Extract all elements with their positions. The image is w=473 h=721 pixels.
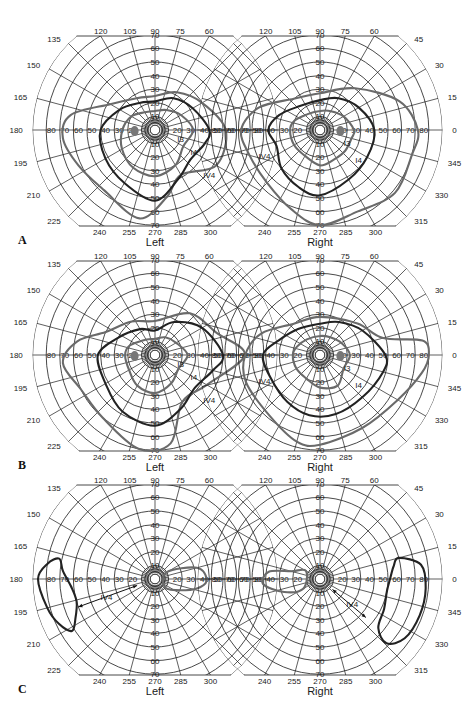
meridian-label: 135 xyxy=(47,35,61,44)
eccentricity-label: 50 xyxy=(253,575,262,584)
left-eye-label: Left xyxy=(146,685,164,697)
eccentricity-label: 80 xyxy=(212,351,221,360)
meridian-line xyxy=(43,514,143,572)
eccentricity-label: 60 xyxy=(316,493,325,502)
meridian-label: 60 xyxy=(370,252,379,261)
meridian-label: 195 xyxy=(14,384,28,393)
meridian-label: 105 xyxy=(288,252,302,261)
eccentricity-label: 60 xyxy=(316,269,325,278)
eccentricity-label: 50 xyxy=(253,351,262,360)
eccentricity-label: 50 xyxy=(151,507,160,516)
eccentricity-label: 70 xyxy=(151,256,160,265)
meridian-label: 330 xyxy=(435,640,449,649)
eccentricity-label: 30 xyxy=(351,575,360,584)
eccentricity-label: 80 xyxy=(47,126,56,135)
right-eye-label: Right xyxy=(307,685,333,697)
eccentricity-label: 60 xyxy=(316,657,325,666)
eccentricity-label: 20 xyxy=(316,548,325,557)
meridian-label: 60 xyxy=(370,27,379,36)
eccentricity-label: 30 xyxy=(316,534,325,543)
panel-a: 1201059075602402552702853001351501651801… xyxy=(9,1,461,259)
meridian-label: 300 xyxy=(204,677,218,686)
eccentricity-label: 80 xyxy=(419,575,428,584)
meridian-label: 210 xyxy=(27,416,41,425)
fixation-point xyxy=(150,574,160,584)
eccentricity-label: 30 xyxy=(280,126,289,135)
eccentricity-label: 20 xyxy=(293,126,302,135)
eccentricity-label: 20 xyxy=(316,602,325,611)
panel-c: 1201059075602402552702853001351501651801… xyxy=(9,450,461,708)
meridian-label: 30 xyxy=(435,510,444,519)
eccentricity-label: 60 xyxy=(316,208,325,217)
eccentricity-label: 50 xyxy=(151,58,160,67)
meridian-label: 30 xyxy=(435,286,444,295)
meridian-label: 0 xyxy=(452,575,457,584)
meridian-line xyxy=(332,514,432,572)
eccentricity-label: 50 xyxy=(316,507,325,516)
eccentricity-label: 40 xyxy=(151,180,160,189)
meridian-label: 15 xyxy=(448,542,457,551)
eccentricity-label: 80 xyxy=(47,351,56,360)
meridian-label: 75 xyxy=(176,476,185,485)
meridian-line xyxy=(168,546,280,576)
eccentricity-label: 30 xyxy=(316,392,325,401)
eccentricity-label: 40 xyxy=(316,521,325,530)
meridian-label: 195 xyxy=(14,159,28,168)
blind-spot xyxy=(336,351,344,361)
meridian-label: 60 xyxy=(205,476,214,485)
meridian-line xyxy=(64,140,146,222)
meridian-label: 120 xyxy=(94,27,108,36)
meridian-line xyxy=(30,359,142,389)
eccentricity-label: 40 xyxy=(101,351,110,360)
eccentricity-label: 10 xyxy=(316,337,325,346)
fixation-point xyxy=(150,125,160,135)
isopter-label: IV4 xyxy=(259,377,272,386)
meridian-label: 240 xyxy=(93,228,107,237)
eccentricity-label: 50 xyxy=(253,126,262,135)
visual-field-figure: 1201059075602402552702853001351501651801… xyxy=(0,0,473,721)
arrowhead-icon xyxy=(133,585,137,588)
eccentricity-label: 20 xyxy=(151,602,160,611)
meridian-label: 180 xyxy=(9,351,23,360)
eccentricity-label: 60 xyxy=(74,575,83,584)
eccentricity-label: 70 xyxy=(316,256,325,265)
fixation-point xyxy=(315,350,325,360)
eccentricity-label: 50 xyxy=(88,351,97,360)
eccentricity-label: 40 xyxy=(365,351,374,360)
left-eye-label: Left xyxy=(146,236,164,248)
eccentricity-label: 20 xyxy=(316,153,325,162)
isopter-iv4 xyxy=(243,317,429,446)
meridian-label: 60 xyxy=(370,476,379,485)
meridian-label: 225 xyxy=(47,217,61,226)
eccentricity-label: 70 xyxy=(406,351,415,360)
meridian-label: 120 xyxy=(259,476,273,485)
meridian-label: 45 xyxy=(414,484,423,493)
eccentricity-label: 30 xyxy=(280,575,289,584)
right-eye-label: Right xyxy=(307,236,333,248)
meridian-line xyxy=(43,65,143,123)
eccentricity-label: 10 xyxy=(151,561,160,570)
eccentricity-label: 40 xyxy=(365,575,374,584)
eccentricity-label: 70 xyxy=(316,480,325,489)
meridian-label: 120 xyxy=(94,252,108,261)
meridian-label: 255 xyxy=(123,228,137,237)
eccentricity-label: 20 xyxy=(173,351,182,360)
panel-b: 1201059075602402552702853001351501651801… xyxy=(9,226,461,484)
meridian-label: 75 xyxy=(176,27,185,36)
eccentricity-label: 60 xyxy=(392,126,401,135)
eccentricity-label: 80 xyxy=(212,575,221,584)
meridian-line xyxy=(333,546,445,576)
eccentricity-label: 40 xyxy=(151,521,160,530)
eccentricity-label: 40 xyxy=(266,351,275,360)
eccentricity-label: 70 xyxy=(316,31,325,40)
meridian-label: 165 xyxy=(14,542,28,551)
meridian-label: 210 xyxy=(27,640,41,649)
meridian-line xyxy=(162,591,220,691)
meridian-label: 45 xyxy=(414,260,423,269)
panel-a-right-eye-chart: 1201059075602402552702853004530150345330… xyxy=(191,1,462,259)
meridian-label: 345 xyxy=(448,384,462,393)
meridian-line xyxy=(330,589,412,671)
meridian-label: 255 xyxy=(288,453,302,462)
eccentricity-label: 60 xyxy=(239,575,248,584)
eccentricity-label: 30 xyxy=(151,167,160,176)
